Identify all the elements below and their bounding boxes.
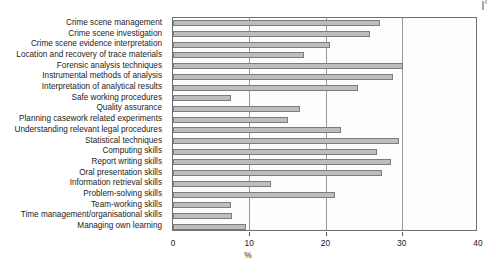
bar (173, 106, 300, 112)
x-tick-label-40: 40 (473, 238, 482, 248)
category-label: Location and recovery of trace materials (16, 49, 162, 60)
x-tick-10 (249, 232, 250, 236)
bar (173, 170, 382, 176)
x-axis-title: % (244, 250, 251, 260)
bar (173, 52, 304, 58)
category-label: Crime scene investigation (68, 28, 162, 39)
bar (173, 159, 391, 165)
category-label: Crime scene management (66, 17, 162, 28)
bar (173, 95, 231, 101)
plot-area: 010203040 (172, 17, 477, 231)
bar (173, 149, 377, 155)
category-label: Understanding relevant legal procedures (15, 124, 162, 135)
category-label: Statistical techniques (85, 135, 162, 146)
scan-artifact-secondary-icon (485, 0, 487, 4)
category-label: Team-working skills (91, 199, 162, 210)
gridline-10 (249, 18, 250, 230)
category-label: Interpretation of analytical results (42, 81, 162, 92)
category-label: Oral presentation skills (79, 167, 162, 178)
x-tick-label-30: 30 (397, 238, 406, 248)
category-label: Time management/organisational skills (21, 209, 162, 220)
category-label: Instrumental methods of analysis (42, 70, 162, 81)
bar (173, 74, 393, 80)
bar (173, 192, 335, 198)
bar (173, 213, 232, 219)
bar (173, 202, 231, 208)
category-axis-labels: Crime scene managementCrime scene invest… (0, 17, 166, 231)
x-tick-label-10: 10 (245, 238, 254, 248)
category-label: Forensic analysis techniques (57, 60, 162, 71)
bar (173, 42, 330, 48)
bar (173, 85, 358, 91)
category-label: Computing skills (102, 145, 162, 156)
bar (173, 31, 370, 37)
category-label: Planning casework related experiments (19, 113, 162, 124)
category-label: Quality assurance (96, 102, 162, 113)
gridline-20 (326, 18, 327, 230)
x-tick-20 (326, 232, 327, 236)
x-tick-30 (402, 232, 403, 236)
category-label: Problem-solving skills (83, 188, 162, 199)
bar (173, 181, 271, 187)
bar (173, 224, 246, 230)
bar (173, 20, 380, 26)
category-label: Crime scene evidence interpretation (31, 38, 162, 49)
gridline-30 (402, 18, 403, 230)
bar (173, 127, 341, 133)
category-label: Safe working procedures (71, 92, 162, 103)
category-label: Information retrieval skills (70, 177, 162, 188)
category-label: Report writing skills (91, 156, 162, 167)
scan-artifact-icon (482, 1, 484, 10)
bar-chart: Crime scene managementCrime scene invest… (0, 0, 496, 276)
category-label: Managing own learning (77, 220, 162, 231)
x-tick-label-20: 20 (321, 238, 330, 248)
bar (173, 63, 403, 69)
bar (173, 117, 288, 123)
bar (173, 138, 399, 144)
x-tick-label-0: 0 (171, 238, 176, 248)
